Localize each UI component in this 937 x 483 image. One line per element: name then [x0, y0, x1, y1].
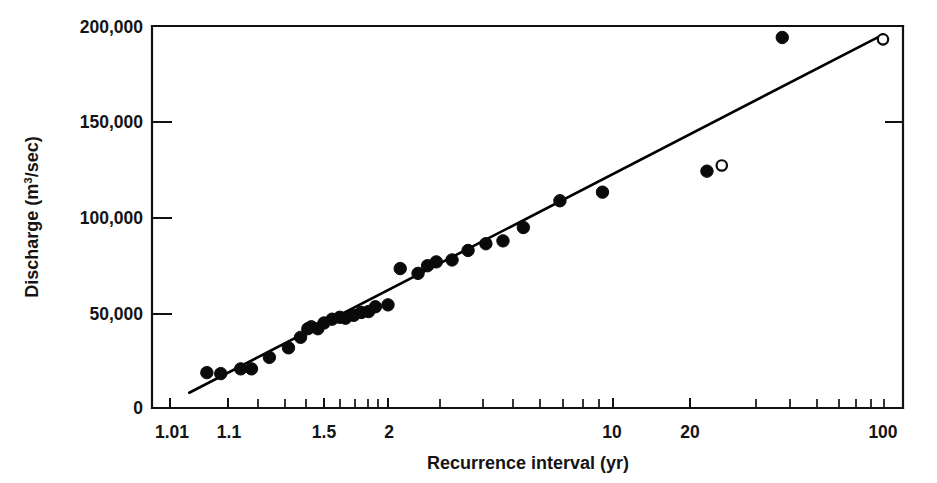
x-tick-label-2: 2 [384, 422, 394, 442]
data-point [480, 238, 492, 250]
data-point [776, 31, 788, 43]
x-tick-label-10: 10 [602, 422, 622, 442]
x-tick-label-1.1: 1.1 [217, 422, 242, 442]
x-tick-label-20: 20 [680, 422, 700, 442]
data-point [215, 367, 227, 379]
x-tick-label-1.5: 1.5 [312, 422, 337, 442]
flood-frequency-chart: 0 50,000 100,000 150,000 200,000 [0, 0, 937, 483]
data-point [245, 363, 257, 375]
data-point [282, 342, 294, 354]
data-point [263, 351, 275, 363]
data-point [446, 254, 458, 266]
trend-line [189, 35, 883, 393]
series-observed-points [201, 31, 789, 380]
y-axis-ticks [152, 122, 172, 314]
data-point [497, 235, 509, 247]
data-point [701, 165, 713, 177]
x-tick-label-100: 100 [868, 422, 897, 442]
x-tick-label-1.01: 1.01 [155, 422, 189, 442]
y-axis-title-suffix: /sec) [22, 136, 42, 177]
fit-line-group [189, 35, 883, 393]
series-historic-points [717, 34, 889, 170]
data-point [596, 186, 608, 198]
data-point [394, 262, 406, 274]
y-tick-label-0: 0 [133, 398, 143, 418]
y-axis-labels: 0 50,000 100,000 150,000 200,000 [80, 17, 144, 418]
data-point [201, 366, 213, 378]
chart-canvas: 0 50,000 100,000 150,000 200,000 [0, 0, 937, 483]
y-tick-label-50000: 50,000 [89, 304, 143, 324]
y-tick-label-100000: 100,000 [80, 208, 144, 228]
y-axis-title: Discharge (m3/sec) [22, 136, 42, 297]
data-point [878, 34, 888, 44]
data-point [382, 299, 394, 311]
data-point [717, 160, 727, 170]
data-point [462, 244, 474, 256]
data-point [554, 195, 566, 207]
data-point [517, 221, 529, 233]
x-axis-ticks [170, 398, 884, 408]
x-axis-title: Recurrence interval (yr) [427, 453, 629, 473]
y-tick-label-200000: 200,000 [80, 17, 144, 37]
y-tick-label-150000: 150,000 [80, 112, 144, 132]
data-point [430, 256, 442, 268]
x-axis-labels: 1.01 1.1 1.5 2 10 20 100 [155, 422, 898, 442]
y-axis-title-prefix: Discharge (m [22, 184, 42, 298]
data-point [369, 301, 381, 313]
